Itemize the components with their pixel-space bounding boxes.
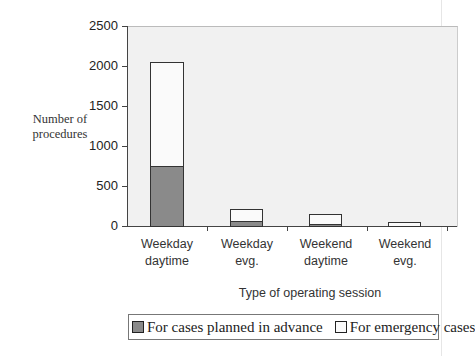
bar-weekend-evg <box>388 222 421 227</box>
label-line: daytime <box>122 253 212 270</box>
bar-weekend-daytime <box>309 214 342 227</box>
label-line: evg. <box>360 253 450 270</box>
label-line: Weekday <box>122 236 212 253</box>
label-line: daytime <box>281 253 371 270</box>
label-line: Weekend <box>281 236 371 253</box>
y-tick <box>122 106 127 107</box>
legend-label: For emergency cases <box>350 319 475 336</box>
y-axis-title: Number of procedures <box>20 112 100 142</box>
bar-segment-planned <box>310 224 341 226</box>
legend-item-planned: For cases planned in advance <box>132 319 323 336</box>
y-tick <box>122 26 127 27</box>
y-tick-label: 2500 <box>70 18 118 33</box>
y-tick <box>122 66 127 67</box>
legend-item-emergency: For emergency cases <box>335 319 475 336</box>
bar-segment-planned <box>151 166 183 226</box>
y-tick <box>122 186 127 187</box>
bar-weekday-evg <box>230 209 263 227</box>
y-tick <box>122 226 127 227</box>
legend-swatch-planned-icon <box>132 321 144 333</box>
x-tick <box>447 226 448 231</box>
x-category-label: Weekend daytime <box>281 236 371 270</box>
label-line: evg. <box>202 253 292 270</box>
y-axis <box>127 26 128 227</box>
x-tick <box>367 226 368 231</box>
bar-segment-planned <box>231 221 262 226</box>
x-tick <box>287 226 288 231</box>
legend: For cases planned in advance For emergen… <box>128 314 439 340</box>
bar-weekday-daytime <box>150 62 184 227</box>
legend-swatch-emergency-icon <box>335 321 347 333</box>
x-axis-title: Type of operating session <box>190 286 430 300</box>
y-tick <box>122 146 127 147</box>
y-title-line: procedures <box>20 127 100 142</box>
x-category-label: Weekday evg. <box>202 236 292 270</box>
y-tick-label: 500 <box>70 178 118 193</box>
legend-label: For cases planned in advance <box>147 319 323 336</box>
y-title-line: Number of <box>20 112 100 127</box>
label-line: Weekend <box>360 236 450 253</box>
y-tick-label: 0 <box>70 218 118 233</box>
x-category-label: Weekday daytime <box>122 236 212 270</box>
label-line: Weekday <box>202 236 292 253</box>
y-tick-label: 1500 <box>70 98 118 113</box>
x-tick <box>207 226 208 231</box>
y-tick-label: 2000 <box>70 58 118 73</box>
x-category-label: Weekend evg. <box>360 236 450 270</box>
